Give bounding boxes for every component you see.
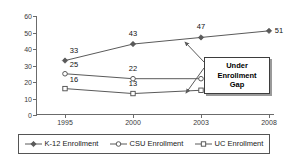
data-label-csu-1995: 25 [70,61,78,69]
data-label-uc-1995: 16 [70,76,78,84]
y-tick-label: 60 [24,13,32,20]
callout-line-3: Gap [230,80,245,90]
data-point-uc-2000 [131,91,135,95]
callout-line-1: Under [226,61,248,71]
data-point-k12-2000 [130,41,135,46]
circle-marker-icon [110,140,127,148]
data-point-k12-1995 [62,58,67,63]
x-axis-label-1995: 1995 [57,119,73,126]
enrollment-line-chart: 60 50 40 30 20 10 0 1 [0,0,284,162]
data-label-uc-2000: 13 [129,80,137,88]
data-label-k12-2003: 47 [197,23,205,31]
legend-item-k12[interactable]: K-12 Enrollment [25,140,99,148]
legend-label-uc: UC Enrollment [215,140,264,148]
data-point-k12-2008 [266,28,271,33]
data-point-uc-1995 [63,86,67,90]
under-enrollment-gap-callout: Under Enrollment Gap [204,57,270,94]
legend-item-csu[interactable]: CSU Enrollment [110,140,184,148]
data-label-k12-2008: 51 [275,27,283,35]
y-tick-label: 40 [24,46,32,53]
data-point-csu-2003 [199,76,204,81]
legend-label-csu: CSU Enrollment [130,140,184,148]
legend-label-k12: K-12 Enrollment [45,140,99,148]
legend-item-uc[interactable]: UC Enrollment [195,140,264,148]
data-point-csu-1995 [63,71,68,76]
diamond-marker-icon [25,140,42,148]
callout-line-2: Enrollment [217,71,256,81]
y-tick-label: 50 [24,29,32,36]
x-axis-label-2003: 2003 [193,119,209,126]
y-tick-label: 10 [24,95,32,102]
y-tick-label: 0 [28,112,32,119]
data-label-k12-2000: 43 [129,30,137,38]
x-axis-label-2008: 2008 [261,119,277,126]
y-tick-label: 20 [24,79,32,86]
data-point-uc-2003 [199,88,203,92]
y-tick-label: 30 [24,62,32,69]
data-point-k12-2003 [198,35,203,40]
square-marker-icon [195,140,212,148]
data-label-csu-2000: 22 [129,65,137,73]
chart-legend: K-12 Enrollment CSU Enrollment UC Enroll… [18,134,270,154]
data-label-k12-1995: 33 [70,47,78,55]
x-axis-label-2000: 2000 [125,119,141,126]
